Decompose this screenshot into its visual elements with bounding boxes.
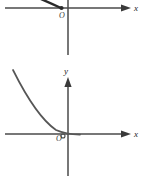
coordinate-plane-figure: O x O y x <box>0 0 143 176</box>
upper-curve-endpoint-dot <box>59 6 63 10</box>
upper-curve-path <box>34 0 61 8</box>
lower-y-axis-label: y <box>63 66 68 76</box>
lower-panel: O y x <box>5 66 138 176</box>
lower-curve-path <box>13 70 80 135</box>
upper-origin-label: O <box>59 11 65 20</box>
figure-canvas: O x O y x <box>0 0 143 176</box>
lower-y-axis-arrow-icon <box>64 77 71 87</box>
upper-panel: O x <box>5 0 138 55</box>
lower-x-axis-label: x <box>133 129 138 139</box>
upper-x-axis-arrow-icon <box>121 4 131 11</box>
lower-x-axis-arrow-icon <box>121 130 131 137</box>
upper-x-axis-label: x <box>133 3 138 13</box>
lower-origin-label: O <box>56 134 62 143</box>
